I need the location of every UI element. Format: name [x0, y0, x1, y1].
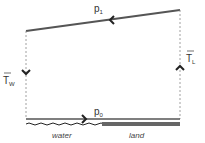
label-tw: TW: [3, 75, 15, 87]
label-water: water: [52, 131, 72, 140]
label-tl: TL: [186, 53, 196, 65]
isobar-p1: [26, 10, 180, 31]
water-surface: [26, 123, 106, 125]
circulation-diagram: p1 p0 TW TL water land: [0, 0, 205, 143]
land-surface: [102, 122, 180, 126]
label-land: land: [129, 131, 145, 140]
label-p1: p1: [94, 3, 104, 15]
label-p0: p0: [94, 106, 104, 118]
